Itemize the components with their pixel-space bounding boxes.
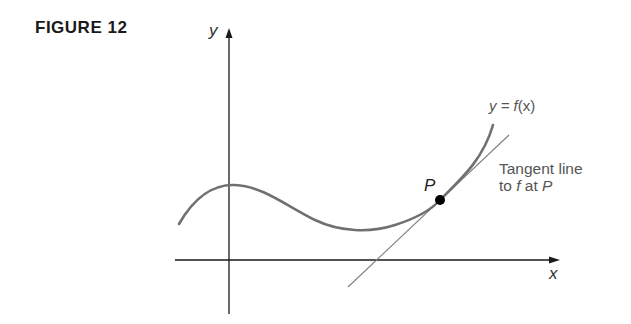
tangent-label: Tangent line to f at P	[499, 160, 583, 194]
curve-label-prefix: y =	[489, 97, 514, 114]
tangent-label-p: P	[542, 177, 552, 194]
point-label: P	[424, 177, 435, 194]
y-axis-arrow-icon	[226, 28, 233, 38]
tangent-label-line1: Tangent line	[499, 160, 583, 177]
x-axis-arrow-icon	[549, 257, 560, 264]
curve-label-arg: (x)	[518, 97, 536, 114]
x-axis-label: x	[549, 265, 558, 282]
y-axis-label: y	[209, 22, 218, 39]
function-curve	[179, 125, 493, 230]
tangent-label-to: to	[499, 177, 516, 194]
tangent-point	[435, 195, 445, 205]
tangent-label-line2: to f at P	[499, 177, 583, 194]
tangent-label-at: at	[521, 177, 543, 194]
curve-label: y = f(x)	[489, 97, 535, 114]
